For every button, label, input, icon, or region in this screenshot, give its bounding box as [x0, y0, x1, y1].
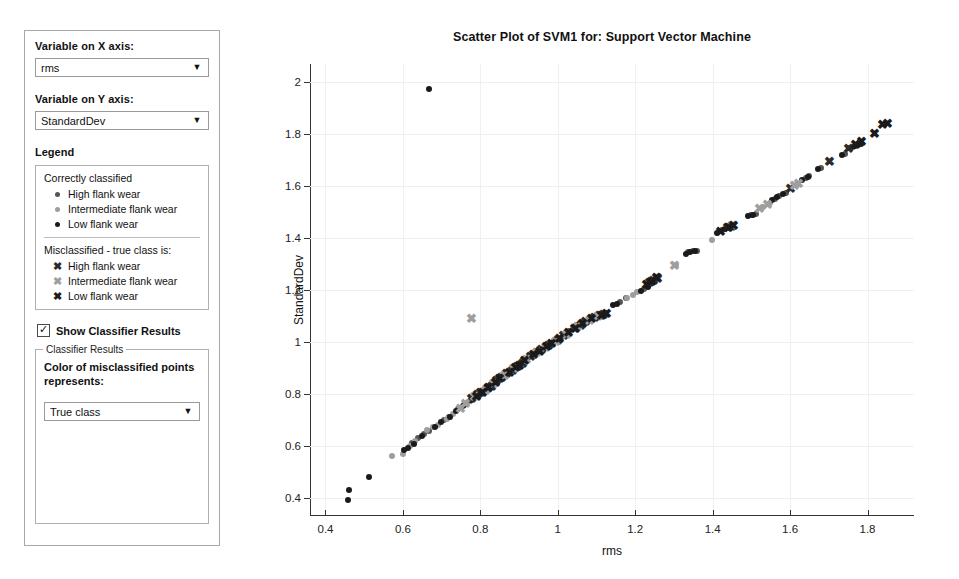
x-axis-variable-value: rms	[36, 62, 189, 74]
data-point	[465, 399, 471, 405]
data-point	[542, 345, 548, 351]
color-represents-select[interactable]: True class ▼	[44, 402, 200, 421]
checkbox-box[interactable]: ✓	[37, 324, 50, 337]
y-tick	[304, 82, 310, 83]
data-point	[366, 474, 372, 480]
data-point: ✖	[843, 143, 855, 155]
data-point: ✖	[669, 260, 681, 272]
data-point: ✖	[498, 370, 510, 382]
data-point	[767, 200, 773, 206]
x-tick-label: 1.2	[627, 523, 643, 535]
data-point	[750, 212, 756, 218]
data-point	[457, 405, 463, 411]
data-point	[419, 433, 425, 439]
legend-item-label: Low flank wear	[68, 290, 138, 302]
gridline-horizontal	[310, 498, 914, 499]
data-point	[780, 191, 786, 197]
legend-item-label: High flank wear	[68, 260, 140, 272]
data-point: ✖	[519, 355, 531, 367]
data-point: ✖	[469, 391, 481, 403]
data-point	[435, 422, 441, 428]
data-point: ✖	[494, 373, 506, 385]
data-point	[563, 331, 569, 337]
data-point	[426, 428, 432, 434]
data-point	[769, 197, 775, 203]
x-tick	[558, 510, 559, 516]
chevron-down-icon: ▼	[189, 116, 208, 125]
data-point	[441, 417, 447, 423]
data-point: ✖	[560, 329, 572, 341]
data-point	[576, 323, 582, 329]
y-tick	[304, 134, 310, 135]
gridline-horizontal	[310, 394, 914, 395]
data-point: ✖	[506, 365, 518, 377]
data-point	[468, 397, 474, 403]
data-point	[581, 320, 587, 326]
classifier-results-group-title: Classifier Results	[43, 344, 126, 355]
data-point	[610, 302, 616, 308]
data-point	[760, 204, 766, 210]
x-axis-variable-select[interactable]: rms ▼	[35, 58, 209, 77]
data-point: ✖	[514, 360, 526, 372]
data-point: ✖	[558, 330, 570, 342]
legend-item: ✖ High flank wear	[46, 258, 202, 273]
data-point	[748, 212, 754, 218]
data-point	[505, 369, 511, 375]
data-point	[753, 211, 759, 217]
x-tick	[480, 510, 481, 516]
y-axis-variable-select[interactable]: StandardDev ▼	[35, 111, 209, 130]
data-point: ✖	[586, 313, 598, 325]
data-point	[850, 144, 856, 150]
data-point	[645, 284, 651, 290]
data-point	[594, 313, 600, 319]
y-tick-label: 0.8	[285, 388, 301, 400]
data-point: ✖	[520, 354, 532, 366]
show-classifier-results-checkbox[interactable]: ✓ Show Classifier Results	[37, 324, 209, 337]
legend-item: ✖ Low flank wear	[46, 288, 202, 303]
legend-item-label: Intermediate flank wear	[68, 203, 177, 215]
gridline-vertical	[480, 64, 481, 516]
data-point	[446, 414, 452, 420]
gridline-horizontal	[310, 82, 914, 83]
data-point: ✖	[516, 358, 528, 370]
data-point	[805, 174, 811, 180]
gridline-horizontal	[310, 238, 914, 239]
x-tick	[713, 510, 714, 516]
data-point: ✖	[856, 136, 868, 148]
data-point	[409, 440, 415, 446]
data-point: ✖	[454, 403, 466, 415]
data-point	[818, 165, 824, 171]
y-tick-label: 0.4	[285, 492, 301, 504]
data-point: ✖	[728, 220, 740, 232]
gridline-horizontal	[310, 134, 914, 135]
legend-x-icon: ✖	[46, 288, 68, 304]
data-point	[486, 384, 492, 390]
data-point	[455, 406, 461, 412]
data-point: ✖	[754, 203, 766, 215]
control-panel: Variable on X axis: rms ▼ Variable on Y …	[24, 30, 220, 546]
chevron-down-icon: ▼	[180, 407, 199, 416]
data-point	[527, 353, 533, 359]
x-tick-label: 1.8	[860, 523, 876, 535]
data-point	[415, 435, 421, 441]
color-represents-value: True class	[45, 406, 180, 418]
y-axis-variable-value: StandardDev	[36, 115, 189, 127]
x-tick-label: 0.6	[395, 523, 411, 535]
data-point: ✖	[563, 327, 575, 339]
data-point	[690, 248, 696, 254]
data-point: ✖	[876, 119, 888, 131]
data-point: ✖	[568, 323, 580, 335]
data-point	[430, 424, 436, 430]
data-point	[839, 152, 845, 158]
x-tick-label: 1	[555, 523, 561, 535]
y-tick	[304, 186, 310, 187]
data-point	[614, 301, 620, 307]
data-point	[566, 328, 572, 334]
data-point	[438, 419, 444, 425]
data-point: ✖	[572, 321, 584, 333]
data-point: ✖	[509, 362, 521, 374]
legend-item: Intermediate flank wear	[46, 201, 202, 216]
data-point: ✖	[589, 312, 601, 324]
data-point	[852, 143, 858, 149]
data-point	[492, 378, 498, 384]
